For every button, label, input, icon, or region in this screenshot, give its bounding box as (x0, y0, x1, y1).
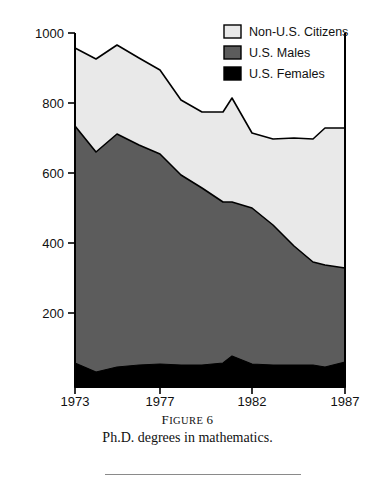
x-tick-label-1977: 1977 (146, 394, 175, 409)
legend-label-us-males: U.S. Males (249, 46, 310, 60)
legend-label-us-females: U.S. Females (249, 67, 325, 81)
figure-caption: FIGURE 6 Ph.D. degrees in mathematics. (0, 412, 375, 447)
x-tick-label-1982: 1982 (238, 394, 267, 409)
legend-swatch-us-males (224, 46, 241, 59)
y-tick-label-1000: 1000 (35, 26, 64, 41)
y-tick-label-400: 400 (42, 236, 64, 251)
y-tick-label-800: 800 (42, 96, 64, 111)
footer-rule (105, 474, 301, 475)
x-tick-label-1987: 1987 (331, 394, 360, 409)
legend-item-us-males: U.S. Males (224, 46, 310, 60)
legend-label-non-us-citizens: Non-U.S. Citizens (249, 25, 348, 39)
y-tick-label-200: 200 (42, 306, 64, 321)
figure-number: 6 (207, 412, 214, 427)
chart-area: 1000 800 600 400 200 1973 1977 1982 1987… (0, 0, 375, 410)
figure-label-rest: IGURE (169, 415, 203, 426)
legend-item-us-females: U.S. Females (224, 67, 325, 81)
figure-label-line: FIGURE 6 (0, 412, 375, 428)
x-tick-label-1973: 1973 (61, 394, 90, 409)
legend-swatch-non-us-citizens (224, 25, 241, 38)
figure-caption-title: Ph.D. degrees in mathematics. (0, 429, 375, 447)
figure-container: 1000 800 600 400 200 1973 1977 1982 1987… (0, 0, 375, 487)
stacked-area-chart: 1000 800 600 400 200 1973 1977 1982 1987… (0, 0, 375, 410)
y-tick-label-600: 600 (42, 166, 64, 181)
legend-swatch-us-females (224, 67, 241, 80)
